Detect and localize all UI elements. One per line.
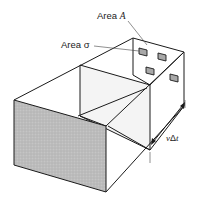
label-area-sigma-text: Area — [61, 39, 84, 50]
label-area-sigma: Area σ — [61, 40, 90, 50]
label-t: t — [176, 133, 179, 143]
label-area-A-symbol: A — [120, 11, 126, 21]
flux-box-diagram — [0, 0, 200, 201]
label-area-sigma-symbol: σ — [84, 39, 90, 50]
label-area-A-text: Area — [97, 10, 120, 21]
label-v-delta-t: vΔt — [166, 134, 179, 143]
label-area-A: Area A — [97, 11, 126, 22]
